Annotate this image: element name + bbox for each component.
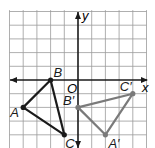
vertex-point — [103, 132, 108, 137]
vertex-label: A′ — [107, 136, 120, 148]
vertex-label: B — [54, 65, 63, 80]
x-axis-label: x — [141, 80, 149, 95]
vertex-label: C — [65, 136, 75, 148]
vertex-point — [75, 105, 80, 110]
x-axis-left-arrow-icon — [10, 77, 17, 83]
y-axis-up-arrow-icon — [75, 12, 81, 19]
vertex-point — [48, 77, 53, 82]
vertex-label: A — [9, 105, 19, 120]
y-axis-down-arrow-icon — [75, 141, 81, 148]
y-axis-label: y — [81, 8, 90, 23]
coordinate-plane: y x O ABC A′B′C′ — [0, 0, 155, 148]
vertex-point — [21, 105, 26, 110]
vertex-label: B′ — [63, 93, 75, 108]
vertex-label: C′ — [120, 79, 132, 94]
